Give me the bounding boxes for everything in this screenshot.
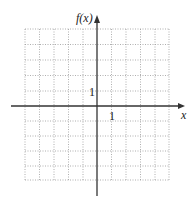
y-unit-label: 1 [89,86,95,98]
coordinate-plane [0,0,195,205]
y-axis-arrow-icon [94,15,100,23]
x-unit-label: 1 [109,110,115,122]
y-axis-label: f(x) [76,12,93,24]
x-axis-label: x [181,109,186,121]
